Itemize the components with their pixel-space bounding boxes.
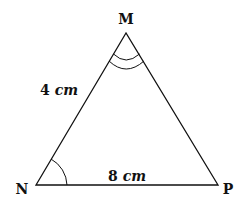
angle-n-arc [51, 159, 67, 185]
vertex-label-n: N [16, 181, 29, 197]
triangle-diagram: M N P 4 cm 8 cm [0, 0, 240, 205]
triangle-mnp [36, 33, 218, 185]
side-np-length: 8 cm [108, 168, 146, 184]
vertex-label-p: P [223, 181, 234, 197]
angle-m-arc-inner [114, 54, 140, 60]
side-nm-length: 4 cm [40, 82, 78, 98]
vertex-label-m: M [118, 11, 134, 27]
angle-m-arc-outer [109, 61, 144, 69]
